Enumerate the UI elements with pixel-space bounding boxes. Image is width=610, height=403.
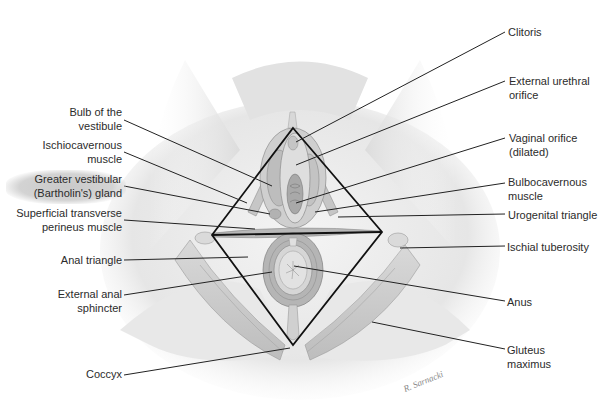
ischial-tuberosity-right [388,233,408,247]
label-anus: Anus [507,295,532,309]
label-clitoris: Clitoris [508,25,542,39]
label-gluteus-maximus: Gluteus maximus [507,343,551,371]
label-external-anal-sphincter: External anal sphincter [58,287,122,315]
label-ischial-tuberosity: Ischial tuberosity [507,240,589,254]
label-superficial-transverse-perineus: Superficial transverse perineus muscle [16,206,122,234]
label-coccyx: Coccyx [86,367,122,381]
label-bulbocavernous-muscle: Bulbocavernous muscle [508,175,587,203]
label-external-urethral-orifice: External urethral orifice [509,74,590,102]
label-vaginal-orifice: Vaginal orifice (dilated) [509,131,577,159]
label-bartholins-gland: Greater vestibular (Bartholin's) gland [34,172,122,200]
label-urogenital-triangle: Urogenital triangle [508,208,597,222]
label-anal-triangle: Anal triangle [61,253,122,267]
label-ischiocavernous-muscle: Ischiocavernous muscle [43,138,123,166]
label-bulb-of-vestibule: Bulb of the vestibule [69,105,122,133]
perineum-diagram: R. Sarnacki Bulb of the vestibule Ischio… [0,0,610,403]
